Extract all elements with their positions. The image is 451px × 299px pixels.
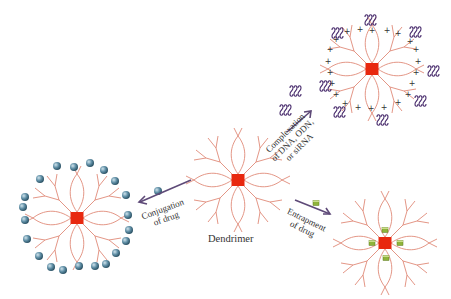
svg-text:+: +	[413, 45, 420, 54]
complexed-dendrimer: +++++ ++++ ++++ ++++ +++++	[280, 15, 439, 126]
svg-text:+: +	[369, 26, 376, 35]
svg-text:+: +	[357, 25, 364, 34]
svg-text:+: +	[355, 103, 362, 112]
svg-text:+: +	[395, 29, 402, 38]
svg-text:+: +	[325, 57, 332, 66]
svg-text:+: +	[344, 27, 351, 36]
entrapped-dendrimer	[313, 191, 437, 295]
conjugated-dendrimer	[19, 159, 162, 274]
svg-text:+: +	[333, 90, 340, 99]
dendrimer-label: Dendrimer	[208, 234, 253, 244]
svg-text:+: +	[384, 26, 391, 35]
svg-text:+: +	[327, 45, 334, 54]
svg-text:+: +	[413, 68, 420, 77]
svg-text:+: +	[327, 68, 334, 77]
svg-text:+: +	[415, 57, 422, 66]
svg-text:+: +	[368, 104, 375, 113]
svg-text:+: +	[381, 103, 388, 112]
svg-text:+: +	[395, 98, 402, 107]
svg-text:+: +	[409, 79, 416, 88]
dendrimer-diagram: +++++ ++++ ++++ ++++ +++++	[0, 0, 451, 299]
svg-text:+: +	[405, 90, 412, 99]
